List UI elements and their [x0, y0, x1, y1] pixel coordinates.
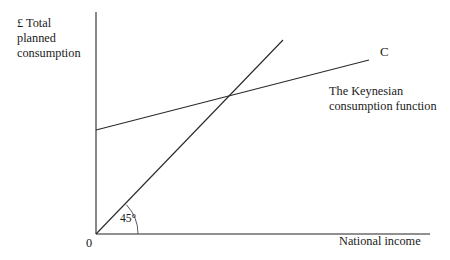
keynesian-consumption-diagram: £ Total planned consumption C The Keynes…: [0, 0, 450, 260]
y-axis-label: £ Total planned consumption: [17, 16, 95, 61]
forty-five-degree-line: [96, 40, 283, 234]
origin-label: 0: [86, 236, 92, 251]
curve-label-c: C: [380, 44, 389, 60]
x-axis-label: National income: [339, 234, 421, 249]
angle-label: 45°: [120, 212, 136, 226]
consumption-function-annotation: The Keynesian consumption function: [329, 84, 450, 114]
